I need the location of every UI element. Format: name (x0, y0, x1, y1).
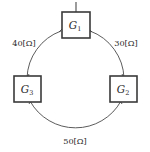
node-g2-subscript: 2 (125, 88, 129, 96)
node-g3-subscript: 3 (29, 88, 33, 96)
edge-label-g1-g3: 40[Ω] (12, 38, 36, 48)
node-g3[interactable]: G3 (14, 76, 41, 102)
network-diagram: G1 G3 G2 40[Ω] 30[Ω] 50[Ω] (0, 0, 150, 152)
edge-label-g1-g2: 30[Ω] (114, 38, 138, 48)
node-g1-subscript: 1 (77, 24, 81, 32)
node-g2[interactable]: G2 (110, 76, 137, 102)
diagram-canvas: G1 G3 G2 40[Ω] 30[Ω] 50[Ω] (0, 0, 150, 152)
edge-label-g3-g2: 50[Ω] (63, 136, 87, 146)
edge-arc-g3-g2 (30, 101, 121, 128)
node-g1[interactable]: G1 (62, 12, 90, 38)
